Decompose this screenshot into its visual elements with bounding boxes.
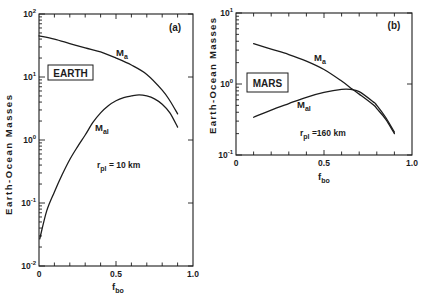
series-label-m-a: Ma [116, 47, 128, 60]
y-tick-label: 10-1 [21, 197, 36, 208]
x-tick-label: 0.5 [318, 158, 330, 168]
planet-name: MARS [253, 78, 283, 89]
x-tick-label: 0.5 [110, 269, 122, 279]
x-axis-label: fbo [318, 171, 330, 184]
planet-name: EARTH [53, 68, 87, 79]
y-tick-label: 102 [23, 8, 36, 19]
x-tick-label: 0 [234, 158, 239, 168]
curve-m-al [254, 89, 395, 132]
x-tick-label: 1.0 [406, 158, 418, 168]
y-tick-label: 101 [23, 71, 36, 82]
panel-b-mars: 10-110010100.51.0 (b) MARS Ma Mal rpl =1… [207, 7, 418, 184]
y-tick-label: 101 [220, 7, 233, 18]
y-axis-label: Earth-Ocean Masses [207, 18, 218, 134]
x-tick-label: 0 [37, 269, 42, 279]
axis-ticks: 10-210-110010110200.51.0 [21, 8, 199, 279]
y-tick-label: 100 [220, 78, 233, 89]
y-tick-label: 10-2 [21, 260, 36, 271]
y-axis-label: Earth-Ocean Masses [3, 95, 14, 215]
x-tick-label: 1.0 [187, 269, 199, 279]
series-label-m-a: Ma [314, 52, 326, 65]
y-tick-label: 10-1 [218, 149, 233, 160]
panel-label: (a) [169, 22, 181, 33]
panel-label: (b) [388, 20, 401, 31]
y-tick-label: 100 [23, 134, 36, 145]
series-label-m-al: Mal [297, 99, 311, 112]
radius-annotation: rpl =160 km [300, 128, 346, 141]
series-label-m-al: Mal [95, 122, 109, 135]
panel-a-earth: 10-210-110010110200.51.0 (a) EARTH Ma Ma… [3, 8, 199, 294]
radius-annotation: rpl = 10 km [97, 160, 141, 173]
figure: 10-210-110010110200.51.0 (a) EARTH Ma Ma… [0, 0, 421, 300]
x-axis-label: fbo [112, 281, 124, 294]
